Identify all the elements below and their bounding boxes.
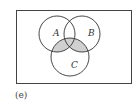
label-c: C (71, 60, 78, 70)
figure-caption: (e) (15, 90, 27, 100)
label-b: B (87, 28, 95, 38)
label-a: A (52, 28, 60, 38)
